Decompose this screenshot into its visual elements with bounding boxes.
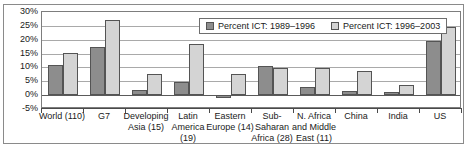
bar [342,91,357,95]
legend-entry-1989-1996: Percent ICT: 1989–1996 [206,22,315,31]
bar-group [42,12,84,107]
y-axis-tick-label: 25% [20,21,38,30]
legend-entry-1996-2003: Percent ICT: 1996–2003 [331,22,440,31]
y-axis-tick-label: 15% [20,49,38,58]
bar-group [126,12,168,107]
bar [132,90,147,96]
bar [174,82,189,96]
y-axis-tick-label: 0% [25,90,38,99]
bar [105,20,120,95]
bar [273,68,288,95]
bar [384,92,399,96]
bar [189,44,204,95]
legend-swatch-icon-1989-1996 [206,22,214,30]
bar [441,27,456,95]
bar [147,74,162,95]
bar [399,85,414,95]
y-axis-tick-labels: 30%25%20%15%10%5%0%-5% [6,0,38,148]
bar [300,87,315,95]
chart-legend: Percent ICT: 1989–1996 Percent ICT: 1996… [199,18,447,34]
bar [48,65,63,95]
y-axis-tick-label: 20% [20,35,38,44]
bar [426,41,441,96]
x-axis-category-label-line: East (11) [285,133,343,144]
legend-swatch-icon-1996-2003 [331,22,339,30]
y-axis-tick-label: 10% [20,62,38,71]
x-axis-category-labels: World (110)G7DevelopingAsia (15)LatinAme… [41,111,461,148]
bar-group [84,12,126,107]
bar [63,53,78,95]
x-axis-category-label-line: (19) [159,133,217,144]
bar [231,74,246,96]
bar [357,71,372,95]
bar [216,95,231,98]
x-axis-category-label-line: and Middle [285,122,343,133]
bar [90,47,105,96]
ict-investment-bar-chart: 30%25%20%15%10%5%0%-5% World (110)G7Deve… [0,0,467,148]
y-axis-tick-label: 30% [20,7,38,16]
bar [315,68,330,95]
y-axis-tick-label: 5% [25,76,38,85]
legend-label-1989-1996: Percent ICT: 1989–1996 [218,22,315,31]
x-axis-category-label: US [411,111,467,122]
legend-label-1996-2003: Percent ICT: 1996–2003 [343,22,440,31]
bar [258,66,273,95]
x-axis-category-label-line: US [411,111,467,122]
